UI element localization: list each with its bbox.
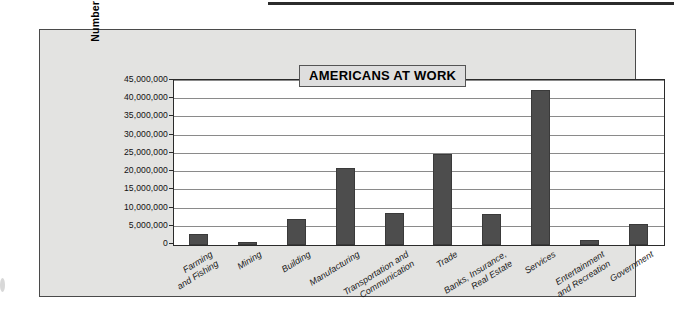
y-axis-tick-label: 20,000,000	[40, 166, 168, 175]
bar	[336, 168, 355, 245]
y-axis-title: Number of People	[87, 0, 101, 79]
bar	[385, 213, 404, 245]
page-top-rule	[268, 2, 674, 5]
bar	[287, 219, 306, 245]
y-axis-tick-label: 0	[40, 239, 168, 248]
gridline	[174, 226, 664, 227]
y-axis-tick-label: 30,000,000	[40, 130, 168, 139]
y-axis-tick-label: 15,000,000	[40, 184, 168, 193]
y-axis-tick-label: 10,000,000	[40, 203, 168, 212]
gridline	[174, 135, 664, 136]
bar	[189, 234, 208, 245]
y-axis-tick-label: 25,000,000	[40, 148, 168, 157]
gridline	[174, 171, 664, 172]
y-axis-title-text: Number of People	[89, 0, 101, 79]
bar	[580, 240, 599, 245]
y-axis-tick-label: 5,000,000	[40, 221, 168, 230]
bar	[482, 214, 501, 245]
gridline	[174, 153, 664, 154]
plot-area	[173, 79, 665, 246]
y-axis-tick-label: 40,000,000	[40, 93, 168, 102]
bar	[433, 154, 452, 245]
gridline	[174, 208, 664, 209]
bar	[238, 242, 257, 245]
y-axis-tick-label: 35,000,000	[40, 111, 168, 120]
gridline	[174, 116, 664, 117]
page-edge-mark	[0, 278, 5, 292]
chart-title: AMERICANS AT WORK	[299, 65, 466, 87]
figure-frame: Number of People 05,000,00010,000,00015,…	[39, 29, 636, 297]
bar	[629, 224, 648, 246]
gridline	[174, 98, 664, 99]
y-axis-tick-label: 45,000,000	[40, 75, 168, 84]
gridline	[174, 189, 664, 190]
bar	[531, 90, 550, 245]
